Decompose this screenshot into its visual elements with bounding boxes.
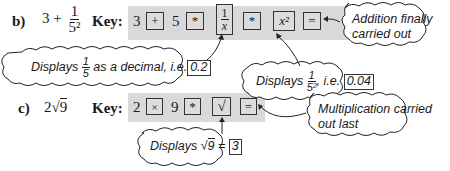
callout-equals-sign: =: [218, 139, 225, 153]
callout-result-box: 0.2: [187, 60, 210, 76]
callout-frac-denominator: 5²: [307, 82, 317, 93]
callout-frac-denominator: 5: [83, 68, 89, 79]
callout-middle-text: , i.e.: [317, 74, 341, 88]
callout-equals-b: Addition finally carried out: [352, 12, 433, 42]
callout-radicand: 9: [208, 138, 215, 153]
callout-middle-text: as a decimal, i.e.: [93, 60, 187, 74]
radical-sign-icon: √: [201, 139, 208, 153]
callout-result-box: 3: [229, 139, 242, 155]
callout-line-1: Addition finally: [352, 12, 433, 27]
arrow-line-equals-c: [260, 106, 306, 117]
arrowhead-reciprocal-icon: [218, 34, 224, 40]
callout-line-2: carried out: [352, 27, 433, 42]
arrowhead-equals-b-icon: [323, 16, 328, 22]
callout-square: Displays 1 5² , i.e. 0.04: [256, 70, 374, 93]
callout-line-1: Multiplication carried: [318, 102, 432, 117]
callout-sqrt: Displays √9 = 3: [150, 139, 242, 155]
arrow-line-equals-b: [326, 19, 340, 22]
callout-prefix: Displays: [256, 74, 303, 88]
arrowhead-sqrt-icon: [219, 117, 225, 122]
callout-prefix: Displays: [150, 139, 197, 153]
callout-equals-c: Multiplication carried out last: [318, 102, 432, 132]
callout-reciprocal: Displays 1 5 as a decimal, i.e.0.2: [31, 56, 211, 79]
callout-result-box: 0.04: [344, 74, 374, 90]
arrowhead-equals-c-icon: [258, 104, 263, 110]
callout-line-2: out last: [318, 117, 432, 132]
callout-prefix: Displays: [31, 60, 78, 74]
arrowhead-square-icon: [276, 33, 282, 39]
